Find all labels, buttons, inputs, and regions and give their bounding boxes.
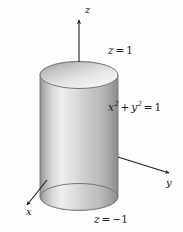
axis-label-y: y (166, 178, 172, 188)
equation-value: 1 (154, 101, 161, 113)
figure-canvas (0, 0, 183, 232)
bottom-plane-label: z=−1 (94, 214, 128, 225)
top-plane-value: 1 (126, 44, 133, 56)
equation-equals: = (142, 101, 154, 113)
top-plane-equals: = (114, 44, 126, 56)
surface-equation-label: x2+y2=1 (108, 100, 161, 112)
bottom-plane-equals: = (100, 213, 112, 225)
axis-label-x: x (26, 207, 32, 217)
cylinder-figure: z y x z=1 z=−1 x2+y2=1 (0, 0, 183, 232)
cylinder-solid (40, 62, 118, 211)
y-axis-arrow (118, 157, 169, 173)
bottom-plane-value: −1 (112, 213, 128, 225)
equation-plus: + (119, 101, 131, 113)
axis-label-z: z (85, 5, 90, 15)
top-plane-label: z=1 (108, 45, 133, 56)
